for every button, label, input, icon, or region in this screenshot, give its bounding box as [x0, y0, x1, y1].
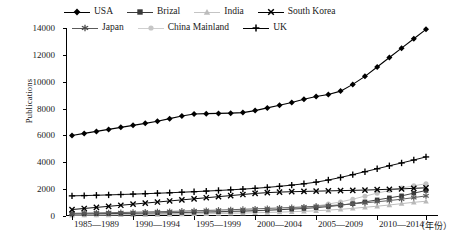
y-tick-mark	[63, 216, 66, 217]
legend-row-1: USA Brizal India	[64, 4, 424, 20]
legend-item-usa: USA	[64, 7, 113, 17]
legend-marker-square-icon	[127, 7, 153, 17]
legend-marker-triangle-icon	[194, 7, 220, 17]
series-layer	[66, 28, 438, 216]
series-usa	[69, 26, 429, 138]
legend-label-south-korea: South Korea	[288, 7, 336, 17]
x-tick-label: 2000—2004	[257, 219, 302, 229]
x-tick-label: 1985—1989	[74, 219, 119, 229]
y-tick-label: 14000	[33, 23, 56, 33]
legend-label-usa: USA	[94, 7, 113, 17]
series-china-mainland	[70, 181, 429, 217]
legend-item-india: India	[194, 7, 244, 17]
y-tick-label: 12000	[33, 50, 56, 60]
x-tick-label: 1995—1999	[196, 219, 241, 229]
legend-label-india: India	[224, 7, 244, 17]
legend-item-brizal: Brizal	[127, 7, 180, 17]
x-tick-label: 2005—2009	[318, 219, 363, 229]
y-tick-label: 2000	[37, 184, 55, 194]
legend-marker-x-icon	[258, 7, 284, 17]
x-tick-label: 2010—2014	[379, 219, 424, 229]
y-tick-label: 6000	[37, 130, 55, 140]
y-tick-label: 8000	[37, 104, 55, 114]
legend-marker-diamond-icon	[64, 7, 90, 17]
y-tick-label: 4000	[37, 157, 55, 167]
y-axis-ticks: 02000400060008000100001200014000	[0, 0, 63, 244]
plot-area	[66, 28, 438, 216]
y-tick-label: 10000	[33, 77, 56, 87]
x-axis-labels: （年份） 1985—19891990—19941995—19992000—200…	[55, 219, 452, 237]
chart-container: USA Brizal India	[0, 0, 452, 244]
x-tick-label: 1990—1994	[135, 219, 180, 229]
legend-label-brizal: Brizal	[157, 7, 180, 17]
legend-item-south-korea: South Korea	[258, 7, 336, 17]
